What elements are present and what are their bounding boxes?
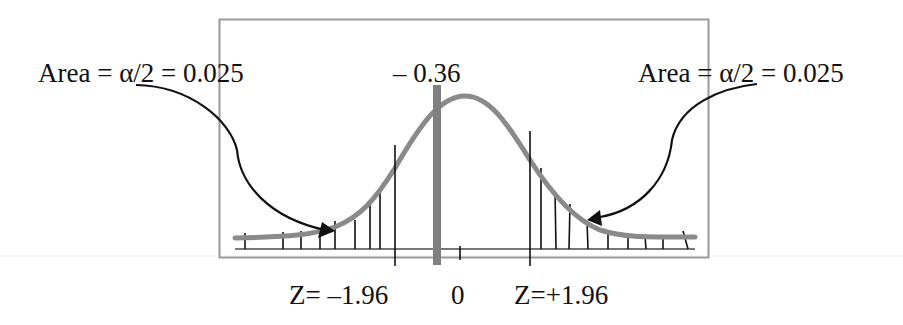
- normal-curve: [235, 96, 695, 238]
- left-area-label: Area = α/2 = 0.025: [38, 60, 244, 87]
- plot-frame: [220, 20, 709, 258]
- test-statistic-label: – 0.36: [393, 60, 461, 87]
- right-critical-label: Z=+1.96: [514, 282, 608, 309]
- left-rejection-hatching: [245, 191, 380, 249]
- zero-label: 0: [451, 282, 465, 309]
- left-area-arrow: [136, 85, 325, 230]
- normal-distribution-diagram: [0, 0, 903, 325]
- test-statistic-bar: [433, 85, 441, 265]
- right-area-label: Area = α/2 = 0.025: [638, 60, 844, 87]
- left-arrow-head-icon: [318, 222, 335, 238]
- left-critical-label: Z= –1.96: [289, 282, 388, 309]
- right-area-arrow: [600, 84, 757, 217]
